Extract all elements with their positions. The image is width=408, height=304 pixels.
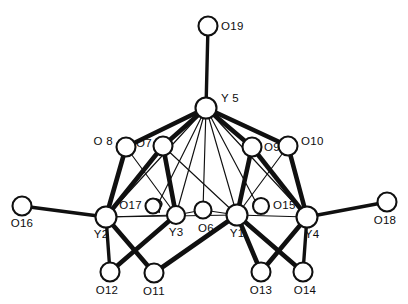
atom-o15[interactable] <box>253 198 269 214</box>
atom-label-o10: O10 <box>301 135 324 147</box>
atom-label-layer: O19Y 5O 8O7O9O10O16Y2O17Y3O6Y1O15Y4O18O1… <box>11 20 397 297</box>
atom-o17[interactable] <box>146 199 161 214</box>
atom-o14[interactable] <box>294 263 313 282</box>
molecular-structure-figure: O19Y 5O 8O7O9O10O16Y2O17Y3O6Y1O15Y4O18O1… <box>0 0 408 304</box>
atom-o8[interactable] <box>117 138 136 157</box>
atom-label-o15: O15 <box>273 199 296 211</box>
atom-label-o7: O7 <box>136 137 152 149</box>
atom-y5[interactable] <box>196 98 217 119</box>
atom-label-o16: O16 <box>11 217 34 229</box>
atom-label-y3: Y3 <box>169 226 184 238</box>
atom-y3[interactable] <box>167 206 185 224</box>
atom-y2[interactable] <box>96 207 117 228</box>
atom-label-o14: O14 <box>294 284 317 296</box>
atom-label-o13: O13 <box>250 284 273 296</box>
bond-O16-Y2 <box>22 206 106 217</box>
bond-O19-Y5 <box>206 26 208 108</box>
atom-o19[interactable] <box>199 17 218 36</box>
atom-y1[interactable] <box>227 205 248 226</box>
atom-o12[interactable] <box>101 263 120 282</box>
atom-label-y1: Y1 <box>230 227 245 239</box>
atom-o7[interactable] <box>154 137 173 156</box>
atom-y4[interactable] <box>297 207 318 228</box>
atom-label-o11: O11 <box>143 285 165 297</box>
atom-label-o9: O9 <box>264 141 280 153</box>
molecule-canvas: O19Y 5O 8O7O9O10O16Y2O17Y3O6Y1O15Y4O18O1… <box>0 0 408 304</box>
atom-o11[interactable] <box>145 264 164 283</box>
atom-o9[interactable] <box>243 138 262 157</box>
atom-label-o6: O6 <box>198 222 214 234</box>
atom-label-y2: Y2 <box>94 228 109 240</box>
atom-o18[interactable] <box>378 193 397 212</box>
atom-label-o17: O17 <box>119 199 142 211</box>
atom-o10[interactable] <box>279 137 298 156</box>
atom-label-o18: O18 <box>374 214 397 226</box>
atom-o16[interactable] <box>13 197 32 216</box>
atom-label-o12: O12 <box>96 284 119 296</box>
atom-o6[interactable] <box>195 202 212 219</box>
atom-o13[interactable] <box>252 263 271 282</box>
atom-label-o8: O 8 <box>94 135 113 147</box>
atom-label-y4: Y4 <box>305 228 320 240</box>
atom-label-y5: Y 5 <box>221 92 239 104</box>
atom-label-o19: O19 <box>221 20 244 32</box>
bond-Y5-O6 <box>203 108 206 210</box>
